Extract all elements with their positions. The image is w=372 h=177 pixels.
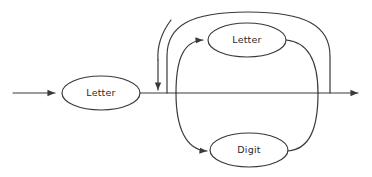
digit-loop-label: Digit	[237, 144, 260, 155]
loop-return-curve	[158, 20, 171, 60]
return-from-letter-loop	[286, 40, 318, 93]
branch-to-digit-loop	[176, 93, 207, 151]
letter-first-label: Letter	[86, 87, 115, 98]
node-digit-loop[interactable]: Digit	[210, 133, 288, 167]
node-letter-loop[interactable]: Letter	[208, 23, 286, 57]
branch-to-letter-loop	[176, 40, 203, 93]
return-from-digit-loop	[288, 93, 318, 151]
railroad-diagram: Letter Letter Digit	[0, 0, 372, 177]
letter-loop-label: Letter	[232, 34, 261, 45]
syntax-diagram-canvas: Letter Letter Digit	[0, 0, 372, 177]
node-letter-first[interactable]: Letter	[62, 76, 140, 110]
